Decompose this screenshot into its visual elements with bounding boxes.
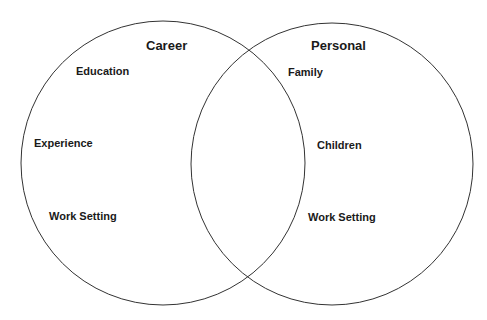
personal-item-family: Family [288,67,323,78]
personal-item-children: Children [317,140,362,151]
career-item-education: Education [76,66,129,77]
personal-item-work-setting: Work Setting [308,212,376,223]
career-circle [21,21,305,305]
career-item-experience: Experience [34,138,93,149]
personal-title: Personal [311,39,366,52]
career-item-work-setting: Work Setting [49,211,117,222]
career-title: Career [146,39,187,52]
personal-circle [191,23,473,305]
venn-diagram [0,0,487,320]
